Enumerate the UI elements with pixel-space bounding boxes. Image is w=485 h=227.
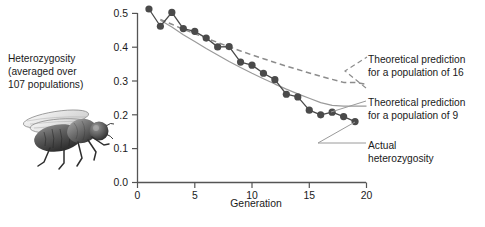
y-tick-4: 0.4 <box>114 42 129 53</box>
legend-actual-heterozygosity: Actual heterozygosity <box>368 139 485 165</box>
x-tick-4: 20 <box>361 190 373 201</box>
legend-theoretical-16: Theoretical prediction for a population … <box>368 53 485 79</box>
data-point <box>237 59 244 66</box>
data-point <box>226 43 233 50</box>
data-point <box>294 93 301 100</box>
data-point <box>351 118 358 125</box>
data-point <box>306 107 313 114</box>
data-point <box>214 43 221 50</box>
y-tick-5: 0.5 <box>114 8 129 19</box>
x-tick-0: 0 <box>135 190 141 201</box>
leader-line-actual-b <box>318 122 355 143</box>
data-point <box>283 91 290 98</box>
data-point <box>157 23 164 30</box>
x-axis-ticks <box>138 183 367 189</box>
data-point <box>340 113 347 120</box>
data-point <box>271 76 278 83</box>
y-tick-3: 0.3 <box>114 76 129 87</box>
data-point <box>168 9 175 16</box>
data-point <box>203 34 210 41</box>
data-point <box>260 70 267 77</box>
data-point <box>248 62 255 69</box>
data-series-layer <box>145 5 366 125</box>
data-point <box>180 25 187 32</box>
y-axis-tick-labels: 0.0 0.1 0.2 0.3 0.4 0.5 <box>114 8 129 188</box>
legend-theoretical-9: Theoretical prediction for a population … <box>368 96 485 122</box>
data-point <box>317 111 324 118</box>
x-axis-title: Generation <box>196 198 316 209</box>
legend-leader-lines <box>318 57 367 143</box>
y-tick-1: 0.1 <box>114 143 129 154</box>
heterozygosity-figure: Heterozygosity (averaged over 107 popula… <box>0 0 485 227</box>
series-line-theoretical-prediction-for-a-population-of-9 <box>160 20 366 106</box>
y-axis-ticks <box>132 13 138 182</box>
y-tick-2: 0.2 <box>114 110 129 121</box>
data-point <box>191 28 198 35</box>
data-point <box>145 5 152 12</box>
y-tick-0: 0.0 <box>114 177 129 188</box>
